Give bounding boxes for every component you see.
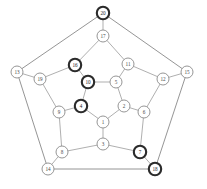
node-circle: [157, 73, 169, 85]
graph-edge: [133, 66, 158, 77]
graph-node[interactable]: 18: [149, 163, 161, 175]
graph-edge: [79, 70, 85, 78]
graph-node[interactable]: 3: [97, 138, 109, 150]
graph-edge: [129, 108, 138, 111]
graph-node[interactable]: 17: [97, 30, 109, 42]
node-circle: [56, 146, 68, 158]
node-circle: [118, 100, 130, 112]
graph-edge: [67, 145, 97, 151]
graph-figure: 1234567891011121314151617181920: [0, 0, 207, 189]
graph-edge: [108, 16, 183, 68]
node-circle: [149, 163, 161, 175]
node-circle: [82, 76, 94, 88]
graph-node[interactable]: 8: [56, 146, 68, 158]
graph-node[interactable]: 1: [97, 116, 109, 128]
node-circle: [122, 58, 134, 70]
graph-edge: [107, 109, 119, 118]
graph-node[interactable]: 20: [97, 7, 109, 19]
graph-node[interactable]: 9: [53, 106, 65, 118]
graph-node[interactable]: 12: [157, 73, 169, 85]
graph-node[interactable]: 14: [42, 163, 54, 175]
graph-canvas: 1234567891011121314151617181920: [0, 0, 207, 189]
graph-node[interactable]: 6: [138, 106, 150, 118]
graph-node[interactable]: 16: [69, 59, 81, 71]
graph-edge: [168, 74, 181, 78]
node-circle: [97, 7, 109, 19]
graph-edge: [79, 40, 99, 61]
graph-edge: [144, 156, 151, 164]
graph-edge: [59, 118, 61, 147]
graph-edge: [83, 88, 87, 101]
graph-edge: [108, 145, 134, 151]
node-circle: [110, 76, 122, 88]
node-circle: [11, 66, 23, 78]
node-layer: 1234567891011121314151617181920: [11, 7, 193, 175]
node-circle: [97, 30, 109, 42]
node-circle: [53, 106, 65, 118]
graph-edge: [45, 67, 69, 77]
node-circle: [34, 73, 46, 85]
graph-node[interactable]: 13: [11, 66, 23, 78]
graph-edge: [22, 74, 34, 78]
node-circle: [97, 138, 109, 150]
graph-node[interactable]: 4: [75, 100, 87, 112]
node-circle: [75, 100, 87, 112]
graph-edge: [22, 16, 99, 69]
graph-edge: [147, 84, 160, 107]
graph-node[interactable]: 10: [82, 76, 94, 88]
graph-node[interactable]: 15: [181, 66, 193, 78]
graph-edge: [86, 109, 99, 118]
node-circle: [69, 59, 81, 71]
node-circle: [97, 116, 109, 128]
node-circle: [138, 106, 150, 118]
graph-node[interactable]: 11: [122, 58, 134, 70]
node-circle: [134, 146, 146, 158]
graph-node[interactable]: 7: [134, 146, 146, 158]
node-circle: [181, 66, 193, 78]
graph-edge: [64, 108, 75, 111]
graph-edge: [119, 69, 125, 78]
graph-edge: [118, 87, 122, 100]
graph-edge: [52, 156, 59, 164]
graph-edge: [141, 118, 144, 147]
graph-edge: [19, 77, 47, 163]
graph-edge: [107, 40, 125, 60]
graph-node[interactable]: 2: [118, 100, 130, 112]
graph-edge: [43, 84, 56, 107]
graph-node[interactable]: 19: [34, 73, 46, 85]
node-circle: [42, 163, 54, 175]
graph-node[interactable]: 5: [110, 76, 122, 88]
graph-edge: [157, 77, 185, 163]
